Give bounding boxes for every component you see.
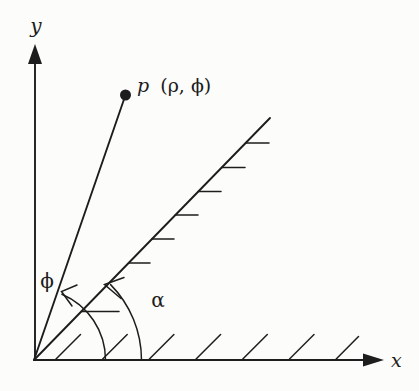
hatch-mark — [336, 337, 358, 360]
y-axis-arrowhead-icon — [28, 44, 42, 64]
y-axis-label: y — [29, 14, 42, 38]
point-p-dot — [120, 90, 131, 101]
wedge-geometry-diagram: y x — [0, 0, 419, 391]
x-axis: x — [34, 349, 402, 371]
radius-line-to-p — [34, 95, 126, 360]
hatch-mark — [103, 335, 128, 360]
x-axis-arrowhead-icon — [363, 354, 384, 367]
y-axis: y — [28, 14, 42, 360]
alpha-angle-arc — [111, 285, 142, 360]
phi-angle-label: ϕ — [40, 269, 54, 293]
alpha-angle-label: α — [151, 288, 165, 312]
point-p-label-name: p — [137, 74, 149, 96]
wedge-face-hatching — [81, 143, 269, 312]
figure-canvas: y x — [0, 0, 419, 391]
hatch-mark — [56, 335, 81, 360]
hatch-mark — [243, 335, 267, 360]
phi-arc-arrowhead-icon — [62, 285, 78, 306]
phi-angle-arc — [62, 294, 106, 360]
x-axis-label: x — [391, 349, 402, 371]
hatch-mark — [196, 335, 221, 360]
point-p-label-coordinates: (ρ, ϕ) — [160, 74, 211, 96]
hatch-mark — [290, 335, 315, 360]
point-p-label: p (ρ, ϕ) — [137, 74, 211, 96]
hatch-mark — [149, 335, 174, 360]
